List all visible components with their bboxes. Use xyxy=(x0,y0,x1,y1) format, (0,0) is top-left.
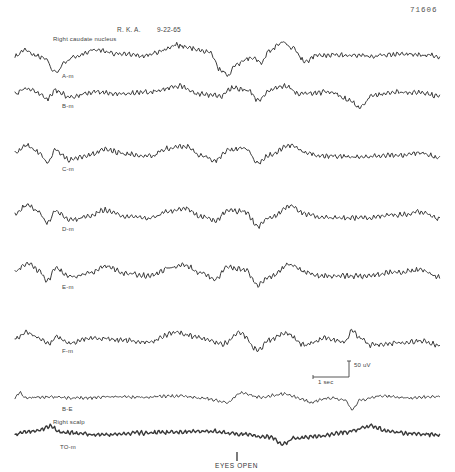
channel-label-to: TO-m xyxy=(60,444,76,450)
channel-label-d: D-m xyxy=(62,226,74,232)
eeg-trace-b-e xyxy=(15,391,440,410)
channel-label-be: B-E xyxy=(62,406,73,412)
eeg-trace-e-m xyxy=(15,262,440,287)
channel-label-b: B-m xyxy=(62,103,74,109)
figure-number: 71606 xyxy=(410,6,438,14)
scale-voltage-label: 50 uV xyxy=(354,362,371,368)
channel-label-c: C-m xyxy=(62,166,74,172)
channel-label-f: F-m xyxy=(62,348,73,354)
recording-date: 9-22-65 xyxy=(157,26,181,33)
eeg-trace-a-m xyxy=(15,42,440,77)
event-marker-label: EYES OPEN xyxy=(215,462,258,469)
eeg-trace-b-m xyxy=(15,83,440,108)
eeg-trace-to-m xyxy=(15,424,440,445)
eeg-figure xyxy=(0,0,455,472)
channel-label-a: A-m xyxy=(62,73,74,79)
channel-label-e: E-m xyxy=(62,284,74,290)
eeg-trace-f-m xyxy=(15,329,440,351)
patient-initials: R. K. A. xyxy=(117,26,141,33)
region-caudate-label: Right caudate nucleus xyxy=(53,36,117,42)
eeg-traces xyxy=(15,42,440,446)
scale-time-label: 1 sec xyxy=(318,379,333,385)
eeg-trace-c-m xyxy=(15,143,440,164)
scale-bar xyxy=(313,361,351,379)
eeg-trace-d-m xyxy=(15,204,440,229)
region-scalp-label: Right scalp xyxy=(53,419,85,425)
